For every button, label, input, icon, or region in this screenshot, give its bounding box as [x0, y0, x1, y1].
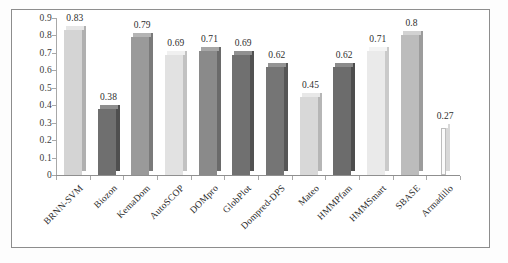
bar-brnn-svm — [64, 30, 82, 175]
bar-side-face — [446, 124, 450, 171]
bar-value-label: 0.27 — [437, 111, 454, 121]
bar-front-face — [441, 128, 446, 175]
y-axis-tick-labels: 00.10.20.30.40.50.60.70.80.9 — [0, 0, 52, 176]
bar-front-face — [64, 30, 82, 175]
x-axis-tick-mark — [90, 176, 91, 180]
y-axis-tick-label: 0.7 — [40, 48, 52, 58]
bar-biozon — [98, 109, 116, 175]
bar-hmmsmart — [367, 51, 385, 175]
y-axis-tick-mark — [52, 18, 56, 19]
bar-front-face — [232, 55, 250, 175]
y-axis-tick-label: 0.3 — [40, 118, 52, 128]
bar-side-face — [82, 26, 86, 171]
x-axis-tick-mark — [359, 176, 360, 180]
bar-value-label: 0.38 — [100, 92, 117, 102]
x-axis-tick-mark — [123, 176, 124, 180]
y-axis-tick-label: 0.1 — [40, 153, 52, 163]
bar-dompred-dps — [266, 67, 284, 175]
bar-side-face — [351, 63, 355, 171]
bar-value-label: 0.69 — [167, 38, 184, 48]
bar-side-face — [284, 63, 288, 171]
bar-value-label: 0.71 — [369, 34, 386, 44]
bar-side-face — [419, 31, 423, 171]
bar-side-face — [149, 33, 153, 171]
y-axis-tick-mark — [52, 158, 56, 159]
bar-chart-figure: 00.10.20.30.40.50.60.70.80.9 0.83BRNN-SV… — [0, 0, 508, 263]
bar-front-face — [367, 51, 385, 175]
bar-value-label: 0.62 — [268, 50, 285, 60]
bar-hmmpfam — [333, 67, 351, 175]
x-axis-tick-mark — [56, 176, 57, 180]
x-axis-tick-mark — [258, 176, 259, 180]
bar-armadillo — [441, 128, 446, 175]
bar-value-label: 0.79 — [134, 20, 151, 30]
bar-front-face — [401, 35, 419, 175]
y-axis-tick-mark — [52, 123, 56, 124]
bar-sbase — [401, 35, 419, 175]
bar-globplot — [232, 55, 250, 175]
y-axis-tick-mark — [52, 53, 56, 54]
x-axis-tick-mark — [157, 176, 158, 180]
x-axis-tick-mark — [292, 176, 293, 180]
bar-front-face — [98, 109, 116, 175]
y-axis-tick-label: 0.5 — [40, 83, 52, 93]
y-axis-tick-mark — [52, 105, 56, 106]
bar-kemadom — [131, 37, 149, 175]
y-axis-tick-label: 0.4 — [40, 100, 52, 110]
y-axis-tick-label: 0.8 — [40, 30, 52, 40]
y-axis-tick-label: 0.6 — [40, 65, 52, 75]
y-axis-tick-label: 0.2 — [40, 135, 52, 145]
bar-side-face — [217, 47, 221, 171]
bar-mateo — [300, 97, 318, 176]
bar-front-face — [300, 97, 318, 176]
y-axis-tick-mark — [52, 70, 56, 71]
bar-side-face — [183, 51, 187, 171]
bar-value-label: 0.69 — [235, 38, 252, 48]
bar-front-face — [165, 55, 183, 175]
bar-front-face — [266, 67, 284, 175]
y-axis-tick-mark — [52, 140, 56, 141]
bar-side-face — [116, 105, 120, 171]
x-axis-tick-mark — [393, 176, 394, 180]
y-axis-tick-mark — [52, 88, 56, 89]
bar-value-label: 0.45 — [302, 80, 319, 90]
bar-dompro — [199, 51, 217, 175]
x-axis-tick-mark — [191, 176, 192, 180]
bar-front-face — [199, 51, 217, 175]
bar-autoscop — [165, 55, 183, 175]
x-axis-tick-mark — [426, 176, 427, 180]
bar-front-face — [333, 67, 351, 175]
y-axis-tick-mark — [52, 35, 56, 36]
bar-side-face — [250, 51, 254, 171]
bar-value-label: 0.62 — [336, 50, 353, 60]
bar-side-face — [385, 47, 389, 171]
bar-side-face — [318, 93, 322, 172]
bar-value-label: 0.8 — [405, 18, 417, 28]
bar-value-label: 0.71 — [201, 34, 218, 44]
bar-front-face — [131, 37, 149, 175]
x-axis-tick-mark — [460, 176, 461, 180]
y-axis-tick-label: 0.9 — [40, 13, 52, 23]
x-axis-tick-mark — [224, 176, 225, 180]
x-axis-tick-mark — [325, 176, 326, 180]
bar-value-label: 0.83 — [66, 13, 83, 23]
